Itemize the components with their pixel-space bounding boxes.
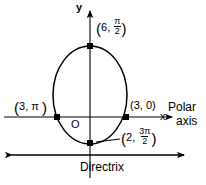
bottom-vertex-theta-num: 3π (138, 127, 151, 136)
point-label-right-vertex: (3, 0) (130, 100, 156, 111)
polar-axis-label-line2: axis (176, 115, 197, 129)
left-vertex-theta: π (31, 101, 39, 112)
open-paren-top: ( (96, 21, 101, 36)
top-vertex-theta-den: 2 (114, 26, 121, 36)
open-paren-bottom: ( (121, 131, 126, 146)
polar-conic-figure: y x Polar axis O (6, π 2 ) (3, π ) (3, 0… (0, 0, 206, 185)
point-marker-bottom-vertex (87, 140, 93, 146)
polar-axis-label-line1: Polar (168, 100, 196, 114)
bottom-vertex-theta-fraction: 3π 2 (138, 127, 151, 147)
open-paren-left: ( (14, 100, 19, 115)
comma-bottom: , (132, 132, 135, 143)
comma-top: , (107, 22, 110, 33)
close-paren-left: ) (42, 100, 47, 115)
close-paren-top: ) (121, 21, 126, 36)
point-label-top-vertex: (6, π 2 ) (96, 18, 126, 38)
directrix-label: Directrix (80, 161, 124, 173)
point-label-left-vertex: (3, π ) (14, 99, 47, 114)
y-axis-label: y (76, 2, 82, 13)
point-marker-right-vertex (123, 114, 129, 120)
close-paren-bottom: ) (151, 131, 156, 146)
point-label-bottom-vertex: (2, 3π 2 ) (121, 128, 156, 148)
point-marker-top-vertex (87, 43, 93, 49)
top-vertex-theta-fraction: π 2 (113, 17, 121, 37)
origin-label: O (71, 119, 80, 130)
bottom-point-leader-line (96, 139, 120, 142)
top-vertex-theta-num: π (113, 17, 121, 26)
point-marker-left-vertex (54, 114, 60, 120)
comma-left: , (25, 101, 28, 112)
x-axis-label: x (160, 111, 166, 122)
polar-axis-label: Polar axis (168, 101, 206, 129)
bottom-vertex-theta-den: 2 (141, 136, 148, 146)
